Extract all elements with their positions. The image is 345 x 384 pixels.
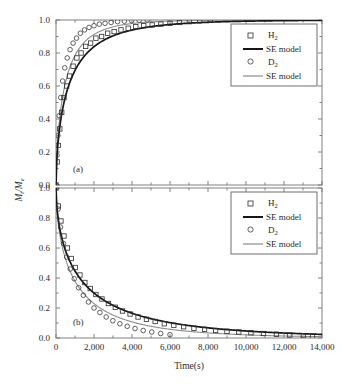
data-point-circle — [86, 300, 91, 305]
panel-b-legend: H2 SE model D2 SE model — [231, 192, 317, 254]
panel-a-h2-markers — [54, 18, 213, 187]
panel-a-legend-label-se2: SE model — [266, 71, 302, 81]
data-point-circle — [104, 315, 109, 320]
data-point-circle — [68, 47, 73, 52]
data-point-circle — [78, 31, 83, 36]
panel-b: 0.00.20.40.60.81.0 02,0004,0006,0008,000… — [39, 183, 335, 352]
y-tick-label: 0.6 — [39, 81, 51, 91]
data-point-circle — [62, 66, 67, 71]
x-tick-label: 2,000 — [84, 342, 105, 352]
x-tick-label: 14,000 — [310, 342, 335, 352]
y-tick-label: 0.2 — [39, 147, 50, 157]
y-tick-label: 1.0 — [39, 183, 51, 193]
data-point-square — [94, 36, 98, 40]
x-tick-label: 0 — [54, 342, 59, 352]
y-tick-label: 0.2 — [39, 303, 50, 313]
data-point-circle — [141, 328, 146, 333]
panel-b-legend-label-se1: SE model — [266, 212, 302, 222]
y-axis-title: Mt/Me — [14, 178, 25, 202]
panel-a-legend: H2 SE model D2 SE model — [231, 24, 317, 86]
data-point-square — [105, 31, 109, 35]
data-point-circle — [65, 56, 70, 61]
data-point-square — [83, 44, 87, 48]
y-tick-label: 0.6 — [39, 243, 51, 253]
data-point-square — [71, 64, 75, 68]
data-point-circle — [149, 330, 154, 335]
x-tick-label: 10,000 — [234, 342, 259, 352]
data-point-circle — [111, 318, 116, 323]
data-point-circle — [82, 28, 87, 33]
data-point-circle — [158, 331, 163, 336]
data-point-circle — [118, 321, 123, 326]
panel-a-y-tick-labels: 0.00.20.40.60.81.0 — [39, 15, 51, 190]
figure-container: 0.00.20.40.60.81.0 (a) H2 SE model D2 SE… — [0, 0, 345, 384]
data-point-circle — [74, 36, 79, 41]
panel-b-x-tick-labels: 02,0004,0006,0008,00010,00012,00014,000 — [54, 342, 335, 352]
data-point-circle — [60, 79, 65, 84]
data-point-circle — [92, 23, 97, 28]
panel-b-y-tick-labels: 0.00.20.40.60.81.0 — [39, 183, 51, 343]
panel-b-d2-markers — [54, 186, 173, 337]
panel-a-label: (a) — [73, 164, 83, 174]
data-point-circle — [97, 22, 102, 27]
panel-a-d2-markers — [54, 18, 150, 188]
data-point-square — [88, 41, 92, 45]
data-point-square — [112, 29, 116, 33]
stretched-exponential-kinetics-figure: 0.00.20.40.60.81.0 (a) H2 SE model D2 SE… — [0, 0, 345, 384]
x-tick-label: 4,000 — [122, 342, 143, 352]
panel-a: 0.00.20.40.60.81.0 (a) H2 SE model D2 SE… — [39, 15, 322, 190]
panel-b-legend-label-se2: SE model — [266, 239, 302, 249]
data-point-circle — [133, 326, 138, 331]
y-tick-label: 0.4 — [39, 114, 51, 124]
data-point-circle — [98, 310, 103, 315]
data-point-circle — [71, 41, 76, 46]
panel-a-legend-label-se1: SE model — [266, 44, 302, 54]
data-point-square — [79, 51, 83, 55]
data-point-circle — [87, 25, 92, 30]
x-tick-label: 12,000 — [272, 342, 297, 352]
panel-b-label: (b) — [73, 317, 84, 327]
y-tick-label: 1.0 — [39, 15, 51, 25]
data-point-square — [99, 34, 103, 38]
data-point-square — [119, 28, 123, 32]
data-point-square — [75, 56, 79, 60]
x-axis-title: Time(s) — [174, 361, 204, 372]
y-tick-label: 0.8 — [39, 213, 51, 223]
y-tick-label: 0.8 — [39, 48, 51, 58]
data-point-circle — [92, 306, 97, 311]
x-tick-label: 8,000 — [198, 342, 219, 352]
y-tick-label: 0.4 — [39, 273, 51, 283]
x-tick-label: 6,000 — [160, 342, 181, 352]
y-tick-label: 0.0 — [39, 333, 51, 343]
data-point-circle — [103, 21, 108, 26]
data-point-circle — [125, 324, 130, 329]
